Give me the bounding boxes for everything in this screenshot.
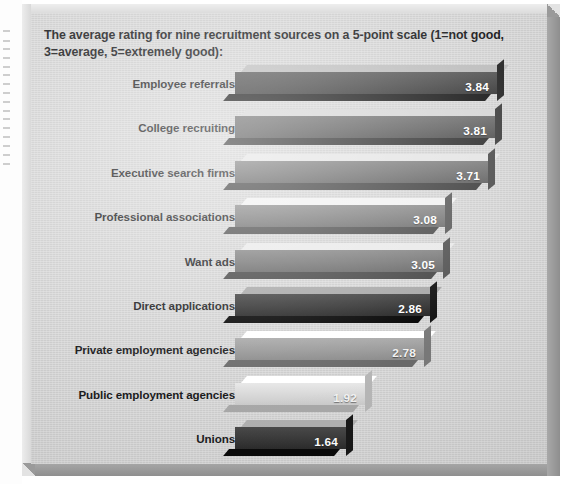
bar-category-label: Employee referrals [20, 77, 235, 90]
bar-value-label: 2.78 [392, 346, 416, 360]
bar-end-cap [346, 414, 353, 456]
bar-top-bevel [241, 420, 358, 427]
bar: 3.81 [235, 109, 495, 149]
scan-artifact-mark [3, 118, 10, 120]
bar-bottom-bevel [223, 227, 439, 234]
bar-top-bevel [241, 198, 457, 205]
bar-value-label: 3.05 [411, 258, 435, 272]
bar-category-label: Executive search firms [20, 166, 235, 179]
bar-row: Executive search firms3.71 [31, 154, 547, 194]
bar-category-label: Public employment agencies [20, 388, 235, 401]
bar-fill: 3.81 [235, 116, 495, 138]
scan-artifact-mark [3, 48, 10, 50]
bar-row: Professional associations3.08 [31, 198, 547, 238]
bar-value-label: 3.84 [465, 80, 489, 94]
bar: 3.84 [235, 65, 497, 105]
bar-bottom-bevel [223, 316, 424, 323]
bar-top-bevel [241, 287, 442, 294]
scan-artifact-mark [3, 30, 10, 32]
bar-bottom-bevel [223, 272, 437, 279]
bar-category-label: College recruiting [20, 121, 235, 134]
bar-chart: Employee referrals3.84College recruiting… [31, 65, 547, 464]
bar-fill: 1.64 [235, 427, 346, 449]
bar-row: Unions1.64 [31, 420, 547, 460]
bar-bottom-bevel [223, 405, 359, 412]
bar-row: Direct applications2.86 [31, 287, 547, 327]
bar-top-bevel [241, 154, 500, 161]
bar-row: Want ads3.05 [31, 243, 547, 283]
bar-fill: 2.86 [235, 294, 430, 316]
bar-bottom-bevel [223, 138, 489, 145]
bar-fill: 3.84 [235, 72, 497, 94]
bar: 3.71 [235, 154, 488, 194]
bar-top-bevel [241, 243, 455, 250]
bar-top-bevel [241, 331, 436, 338]
bar-bottom-bevel [223, 449, 340, 456]
bar-category-label: Direct applications [20, 299, 235, 312]
bar-end-cap [443, 237, 450, 279]
bar-row: College recruiting3.81 [31, 109, 547, 149]
bar-end-cap [365, 370, 372, 412]
scan-artifact-mark [3, 57, 10, 59]
bar: 1.92 [235, 376, 365, 416]
bar-top-bevel [241, 65, 509, 72]
chart-title: The average rating for nine recruitment … [44, 27, 530, 60]
bar-fill: 1.92 [235, 383, 365, 405]
bar-fill: 2.78 [235, 338, 424, 360]
bar-end-cap [495, 104, 502, 146]
bar: 3.05 [235, 243, 443, 283]
bar: 1.64 [235, 420, 346, 460]
scan-artifact-mark [3, 145, 10, 147]
bar-fill: 3.71 [235, 161, 488, 183]
scan-artifact-mark [3, 74, 10, 76]
bar-end-cap [424, 326, 431, 368]
frame-bevel-top [22, 4, 560, 13]
scan-artifact-mark [3, 101, 10, 103]
bar-bottom-bevel [223, 94, 491, 101]
bar: 2.78 [235, 331, 424, 371]
bar-row: Employee referrals3.84 [31, 65, 547, 105]
bar-category-label: Want ads [20, 255, 235, 268]
bar-fill: 3.08 [235, 205, 445, 227]
bar-fill: 3.05 [235, 250, 443, 272]
frame-bevel-right [547, 4, 560, 476]
bar-top-bevel [241, 376, 377, 383]
scan-artifact-mark [3, 127, 10, 129]
frame-corner-top-right [547, 4, 560, 17]
frame-corner-bottom-left [22, 463, 35, 476]
bar: 2.86 [235, 287, 430, 327]
bar-end-cap [497, 59, 504, 101]
scan-artifact-mark [3, 136, 10, 138]
bar-value-label: 3.71 [456, 169, 480, 183]
bar-category-label: Unions [20, 432, 235, 445]
bar-value-label: 1.92 [333, 391, 357, 405]
bar-bottom-bevel [223, 183, 482, 190]
bar-bottom-bevel [223, 360, 418, 367]
figure-frame: The average rating for nine recruitment … [22, 4, 560, 476]
scan-artifact-mark [3, 154, 10, 156]
bar-end-cap [488, 148, 495, 190]
bar: 3.08 [235, 198, 445, 238]
frame-bevel-bottom [22, 464, 560, 476]
bar-category-label: Professional associations [20, 210, 235, 223]
bar-value-label: 2.86 [398, 302, 422, 316]
bar-end-cap [445, 192, 452, 234]
bar-end-cap [430, 281, 437, 323]
bar-category-label: Private employment agencies [20, 343, 235, 356]
scan-artifact-mark [3, 110, 10, 112]
scan-artifact-mark [3, 163, 10, 165]
frame-bevel-left [22, 4, 31, 476]
bar-value-label: 1.64 [314, 435, 338, 449]
bar-top-bevel [241, 109, 507, 116]
bar-row: Public employment agencies1.92 [31, 376, 547, 416]
scan-edge-artifacts [0, 0, 22, 484]
scan-artifact-mark [3, 66, 10, 68]
bar-value-label: 3.81 [463, 124, 487, 138]
bar-row: Private employment agencies2.78 [31, 331, 547, 371]
scan-artifact-mark [3, 83, 10, 85]
chart-plate: The average rating for nine recruitment … [31, 13, 547, 464]
scan-artifact-mark [3, 92, 10, 94]
scan-artifact-mark [3, 40, 10, 42]
bar-value-label: 3.08 [413, 213, 437, 227]
